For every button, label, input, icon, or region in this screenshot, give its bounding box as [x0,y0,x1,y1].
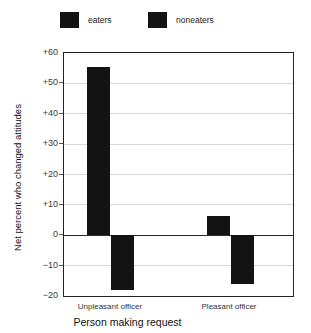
x-tick-label-pleasant-officer: Pleasant officer [202,302,257,311]
y-tick-label-40: +40 [43,108,58,117]
plot-area [63,52,294,297]
bar-noneaters-pleasant-officer [231,235,254,284]
legend-label-eaters: eaters [88,16,112,25]
y-tick-label--10: −10 [43,260,58,269]
y-tick-label-30: +30 [43,139,58,148]
y-tick-label--20: −20 [43,291,58,300]
legend-entry-noneaters: noneaters [148,10,214,30]
y-tick-label-50: +50 [43,78,58,87]
bar-eaters-pleasant-officer [207,216,230,236]
y-tick-label-20: +20 [43,169,58,178]
legend-label-noneaters: noneaters [176,16,214,25]
legend-entry-eaters: eaters [60,10,112,30]
gridline--10 [64,265,293,266]
bar-chart-figure: eaters noneaters +60+50+40+30+20+100−10−… [0,0,311,333]
y-tick-label-60: +60 [43,48,58,57]
x-tick-label-unpleasant-officer: Unpleasant officer [78,302,142,311]
x-axis-title-text: Person making request [74,316,182,328]
y-tick-label-10: +10 [43,199,58,208]
bar-eaters-unpleasant-officer [87,67,110,236]
legend-swatch-noneaters [148,12,167,28]
y-tick-label-0: 0 [53,230,58,239]
y-axis-title: Net percent who changed attitudes [12,68,23,288]
x-axis-title: Person making request [0,316,311,328]
bar-noneaters-unpleasant-officer [111,235,134,290]
y-axis-ticks: +60+50+40+30+20+100−10−20 [0,0,63,333]
